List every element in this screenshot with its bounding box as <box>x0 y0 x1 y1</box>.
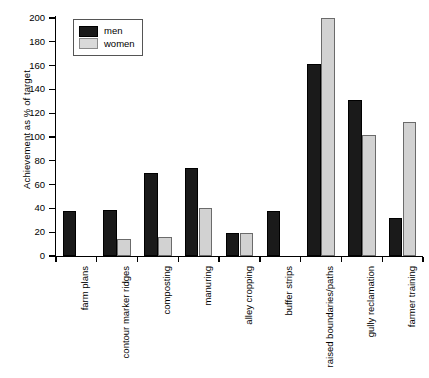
x-axis-label: contour marker ridges <box>121 266 131 358</box>
x-tick-mark <box>55 257 56 262</box>
bar-women-alley-cropping <box>240 233 254 256</box>
legend-item-women: women <box>79 38 135 49</box>
bar-men-raised-boundaries-paths <box>307 64 321 256</box>
bar-women-contour-marker-ridges <box>117 239 131 256</box>
y-tick-mark <box>49 208 56 209</box>
x-tick-mark <box>300 257 301 262</box>
legend-label-women: women <box>104 39 135 49</box>
x-tick-mark <box>382 257 383 262</box>
x-axis-label: raised boundaries/paths <box>325 266 335 367</box>
y-tick-mark <box>49 65 56 66</box>
y-tick-mark <box>49 41 56 42</box>
x-axis-label: manuring <box>203 266 213 306</box>
x-tick-mark <box>178 257 179 262</box>
chart-legend: men women <box>73 19 143 56</box>
bar-women-composting <box>158 237 172 256</box>
x-axis-label: buffer strips <box>284 266 294 315</box>
x-axis-label: farm plans <box>80 266 90 310</box>
legend-swatch-men-icon <box>79 26 98 37</box>
bar-women-farmer-training <box>403 122 417 256</box>
bar-men-farm-plans <box>63 211 77 256</box>
y-tick-mark <box>49 113 56 114</box>
x-tick-mark <box>137 257 138 262</box>
y-tick-label: 60 <box>5 180 45 190</box>
bar-men-farmer-training <box>389 218 403 256</box>
y-tick-label: 40 <box>5 203 45 213</box>
y-tick-mark <box>49 136 56 137</box>
y-tick-mark <box>49 232 56 233</box>
x-tick-mark <box>422 257 423 262</box>
bar-men-gully-reclamation <box>348 100 362 256</box>
x-axis-label: composting <box>162 266 172 315</box>
bar-men-buffer-strips <box>267 211 281 256</box>
bar-men-manuring <box>185 168 199 256</box>
legend-item-men: men <box>79 26 135 37</box>
y-tick-mark <box>49 160 56 161</box>
bar-men-composting <box>144 173 158 256</box>
bar-men-contour-marker-ridges <box>103 210 117 256</box>
y-tick-label: 200 <box>5 13 45 23</box>
y-tick-mark <box>49 17 56 18</box>
y-tick-mark <box>49 184 56 185</box>
x-tick-mark <box>341 257 342 262</box>
bar-chart-figure: Achievement as % of target 0204060801001… <box>0 0 429 378</box>
y-tick-label: 0 <box>5 251 45 261</box>
y-tick-label: 140 <box>5 84 45 94</box>
y-tick-label: 180 <box>5 37 45 47</box>
legend-swatch-women-icon <box>79 38 98 49</box>
y-tick-label: 160 <box>5 61 45 71</box>
y-tick-label: 80 <box>5 156 45 166</box>
legend-label-men: men <box>104 26 122 36</box>
y-tick-label: 120 <box>5 108 45 118</box>
bar-men-alley-cropping <box>226 233 240 256</box>
x-tick-mark <box>259 257 260 262</box>
x-tick-mark <box>218 257 219 262</box>
bar-women-manuring <box>199 208 213 256</box>
x-axis-label: gully reclamation <box>366 266 376 337</box>
y-tick-label: 100 <box>5 132 45 142</box>
x-axis-label: alley cropping <box>244 266 254 325</box>
y-tick-label: 20 <box>5 227 45 237</box>
y-tick-mark <box>49 89 56 90</box>
bar-women-raised-boundaries-paths <box>321 18 335 256</box>
bar-women-gully-reclamation <box>362 135 376 256</box>
x-tick-mark <box>96 257 97 262</box>
x-axis-line <box>55 256 423 257</box>
x-axis-label: farmer training <box>407 266 417 327</box>
